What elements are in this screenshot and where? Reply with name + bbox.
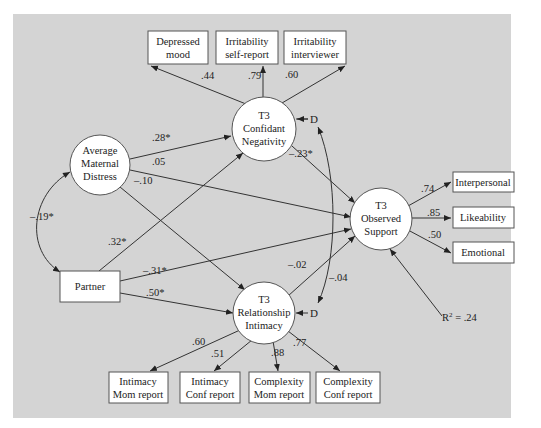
coef-intimacy-compmom: .88 (271, 347, 284, 358)
emotional-label: Emotional (461, 247, 505, 258)
intmom-label-1: Intimacy (119, 376, 157, 387)
coef-neg-irrself: .79 (248, 70, 261, 81)
coef-neg-support: –.23* (288, 148, 313, 159)
r-squared-label: R2 = .24 (442, 311, 478, 323)
intimacy-label-3: Intimacy (245, 320, 283, 331)
disturbance-intimacy: D (310, 307, 318, 319)
partner-label: Partner (75, 281, 106, 292)
neg-label-3: Negativity (242, 136, 287, 147)
compmom-label-1: Complexity (254, 376, 304, 387)
interpersonal-label: Interpersonal (455, 177, 510, 188)
intconf-label-1: Intimacy (191, 376, 229, 387)
path-distress-support (130, 170, 351, 217)
coef-neg-irrint: .60 (285, 69, 298, 80)
path-distress-neg (130, 136, 231, 159)
coef-intimacy-support: –.02 (287, 259, 306, 270)
coef-support-emotional: .50 (428, 229, 441, 240)
distress-label-2: Maternal (81, 158, 119, 169)
neg-label-1: T3 (258, 110, 270, 121)
support-label-2: Observed (361, 213, 402, 224)
coef-distress-partner-cov: –.19* (29, 211, 54, 222)
irrself-label-2: self-report (225, 49, 269, 60)
distress-label-3: Distress (83, 171, 117, 182)
depressed-label-2: mood (166, 49, 191, 60)
intmom-label-2: Mom report (113, 389, 164, 400)
coef-partner-intimacy: .50* (146, 287, 164, 298)
compconf-label-1: Complexity (323, 376, 373, 387)
intconf-label-2: Conf report (186, 389, 235, 400)
coef-neg-depressed: .44 (201, 70, 215, 81)
cov-distress-partner (37, 172, 70, 272)
intimacy-label-2: Relationship (237, 307, 290, 318)
path-partner-intimacy (120, 293, 233, 313)
coef-support-interpersonal: .74 (421, 183, 435, 194)
support-label-3: Support (364, 226, 397, 237)
r2-line (390, 249, 442, 316)
coef-intimacy-intmom: .60 (192, 336, 205, 347)
coef-distress-support: .05 (152, 156, 165, 167)
disturbance-neg: D (310, 113, 318, 125)
distress-label-1: Average (83, 145, 118, 156)
path-neg-depressed (151, 66, 246, 104)
coef-distress-intimacy: –.10 (133, 175, 152, 186)
coef-d-covariance: –.04 (328, 272, 348, 283)
irrint-label-2: interviewer (291, 49, 339, 60)
compmom-label-2: Mom report (254, 389, 305, 400)
support-label-1: T3 (375, 200, 387, 211)
coef-intimacy-compconf: .77 (293, 337, 306, 348)
irrself-label-1: Irritability (225, 36, 269, 47)
coef-support-likeability: .85 (427, 207, 440, 218)
intimacy-label-1: T3 (258, 294, 270, 305)
neg-label-2: Confidant (243, 123, 285, 134)
likeability-label: Likeability (460, 212, 507, 223)
coef-intimacy-intconf: .51 (211, 348, 224, 359)
coef-distress-neg: .28* (152, 132, 170, 143)
depressed-label-1: Depressed (156, 36, 200, 47)
compconf-label-2: Conf report (324, 389, 373, 400)
coef-partner-support: –.31* (142, 265, 167, 276)
path-diagram: Average Maternal Distress T3 Confidant N… (0, 0, 541, 428)
irrint-label-1: Irritability (293, 36, 337, 47)
coef-partner-neg: .32* (108, 236, 126, 247)
